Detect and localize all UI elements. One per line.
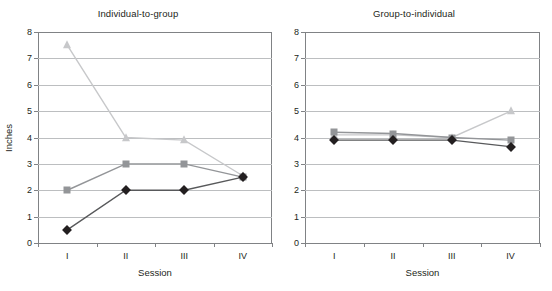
series-line-square <box>334 132 510 140</box>
y-tick-label: 0 <box>27 238 32 248</box>
y-tick-label: 1 <box>294 212 299 222</box>
x-tick-label: III <box>448 251 456 261</box>
plot-area: Inches Session 012345678IIIIIIIV <box>38 32 272 243</box>
x-tick-mark <box>423 243 424 247</box>
chart-title: Individual-to-group <box>0 8 276 19</box>
x-tick-label: III <box>180 251 188 261</box>
x-tick-label: II <box>123 251 128 261</box>
data-point-marker-triangle <box>63 40 71 48</box>
data-point-marker-triangle <box>122 133 130 141</box>
y-tick-label: 1 <box>27 212 32 222</box>
x-tick-mark <box>481 243 482 247</box>
x-tick-mark <box>540 243 541 247</box>
y-tick-label: 4 <box>27 133 32 143</box>
y-tick-label: 6 <box>27 80 32 90</box>
y-tick-label: 5 <box>294 106 299 116</box>
data-point-marker-triangle <box>507 106 515 114</box>
series-lines <box>38 32 272 243</box>
y-tick-label: 8 <box>294 27 299 37</box>
x-tick-mark <box>272 243 273 247</box>
x-axis-title: Session <box>305 267 540 278</box>
x-tick-label: I <box>66 251 69 261</box>
x-tick-label: IV <box>238 251 247 261</box>
y-tick-label: 3 <box>294 159 299 169</box>
x-tick-mark <box>97 243 98 247</box>
x-tick-label: II <box>391 251 396 261</box>
y-tick-label: 2 <box>27 185 32 195</box>
chart-title: Group-to-individual <box>276 8 552 19</box>
y-tick-label: 6 <box>294 80 299 90</box>
x-axis-title: Session <box>38 267 272 278</box>
series-line-diamond <box>334 140 510 147</box>
y-tick-label: 8 <box>27 27 32 37</box>
series-line-square <box>67 164 243 190</box>
y-tick-label: 5 <box>27 106 32 116</box>
y-tick-label: 2 <box>294 185 299 195</box>
y-tick-label: 7 <box>294 53 299 63</box>
y-tick-label: 7 <box>27 53 32 63</box>
series-lines <box>305 32 540 243</box>
chart-panel-group-to-individual: Group-to-individual Session 012345678III… <box>276 0 552 291</box>
series-line-triangle <box>334 111 510 137</box>
x-tick-mark <box>214 243 215 247</box>
y-axis-title: Inches <box>3 124 14 152</box>
data-point-marker-triangle <box>180 135 188 143</box>
chart-panel-individual-to-group: Individual-to-group Inches Session 01234… <box>0 0 276 291</box>
data-point-marker-square <box>181 160 188 167</box>
y-tick-label: 4 <box>294 133 299 143</box>
y-tick-label: 3 <box>27 159 32 169</box>
x-tick-mark <box>38 243 39 247</box>
x-tick-mark <box>364 243 365 247</box>
x-tick-mark <box>155 243 156 247</box>
series-line-triangle <box>67 45 243 176</box>
x-tick-mark <box>305 243 306 247</box>
x-tick-label: IV <box>506 251 515 261</box>
x-tick-label: I <box>333 251 336 261</box>
data-point-marker-square <box>64 187 71 194</box>
plot-area: Session 012345678IIIIIIIV <box>305 32 540 243</box>
data-point-marker-square <box>122 160 129 167</box>
series-line-diamond <box>67 177 243 230</box>
y-tick-label: 0 <box>294 238 299 248</box>
figure-root: Individual-to-group Inches Session 01234… <box>0 0 552 291</box>
